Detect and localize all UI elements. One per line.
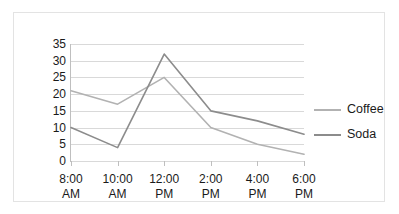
y-axis-tick-label: 0 bbox=[36, 155, 66, 167]
plot-area bbox=[71, 44, 304, 161]
y-axis-tick-labels: 35302520151050 bbox=[36, 44, 66, 161]
x-axis-tickmark bbox=[118, 161, 119, 166]
x-axis-tick-label-time: 4:00 bbox=[246, 172, 269, 186]
x-axis-tick-label-time: 8:00 bbox=[59, 172, 82, 186]
x-axis-tick-label: 4:00PM bbox=[246, 172, 269, 202]
x-axis-tick-label: 8:00AM bbox=[59, 172, 82, 202]
legend-item-label: Coffee bbox=[347, 103, 384, 116]
y-axis-tick-label: 25 bbox=[36, 71, 66, 83]
legend-item-coffee[interactable]: Coffee bbox=[314, 97, 394, 122]
x-axis-tick-label-time: 10:00 bbox=[103, 172, 133, 186]
y-axis-tick-label: 20 bbox=[36, 88, 66, 100]
x-axis-tick-label-meridiem: AM bbox=[59, 187, 82, 202]
legend-line-icon bbox=[314, 134, 341, 136]
y-axis-tick-label: 5 bbox=[36, 138, 66, 150]
x-axis-tick-label: 6:00PM bbox=[292, 172, 315, 202]
x-axis-tickmark bbox=[257, 161, 258, 166]
x-axis-tick-label-meridiem: PM bbox=[292, 187, 315, 202]
y-axis-tick-label: 10 bbox=[36, 122, 66, 134]
legend-item-soda[interactable]: Soda bbox=[314, 122, 394, 147]
x-axis-tickmark bbox=[71, 161, 72, 166]
x-axis-tick-label-meridiem: PM bbox=[149, 187, 179, 202]
x-axis-tick-label-meridiem: PM bbox=[246, 187, 269, 202]
gridline bbox=[71, 161, 304, 162]
legend-line-icon bbox=[314, 109, 341, 111]
y-axis-tick-label: 35 bbox=[36, 38, 66, 50]
x-axis-tick-label-time: 12:00 bbox=[149, 172, 179, 186]
y-axis-tick-label: 15 bbox=[36, 105, 66, 117]
x-axis-tick-label-time: 6:00 bbox=[292, 172, 315, 186]
x-axis-tick-label-meridiem: AM bbox=[103, 187, 133, 202]
series-lines bbox=[71, 44, 304, 161]
chart-legend: CoffeeSoda bbox=[314, 97, 394, 147]
x-axis-tickmark bbox=[304, 161, 305, 166]
x-axis-tick-label-meridiem: PM bbox=[199, 187, 222, 202]
x-axis-tick-label: 10:00AM bbox=[103, 172, 133, 202]
x-axis-tickmark bbox=[164, 161, 165, 166]
chart-container: 35302520151050 8:00AM10:00AM12:00PM2:00P… bbox=[13, 12, 385, 202]
y-axis-tick-label: 30 bbox=[36, 55, 66, 67]
x-axis-tick-label: 12:00PM bbox=[149, 172, 179, 202]
x-axis-tick-label-time: 2:00 bbox=[199, 172, 222, 186]
x-axis-tick-labels: 8:00AM10:00AM12:00PM2:00PM4:00PM6:00PM bbox=[71, 172, 304, 210]
x-axis-tickmark bbox=[211, 161, 212, 166]
x-axis-tick-label: 2:00PM bbox=[199, 172, 222, 202]
legend-item-label: Soda bbox=[347, 128, 376, 141]
